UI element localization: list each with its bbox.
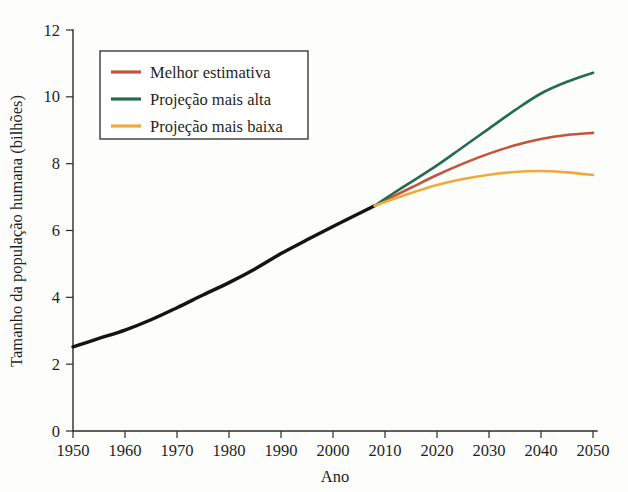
y-tick-label: 12 <box>44 21 61 40</box>
x-tick-label: 2000 <box>317 441 350 460</box>
x-tick-label: 2040 <box>525 441 558 460</box>
y-tick-label: 2 <box>52 355 60 374</box>
chart-legend: Melhor estimativaProjeção mais altaProje… <box>100 51 308 139</box>
y-tick-label: 6 <box>52 221 60 240</box>
chart-figure: 024681012 195019601970198019902000201020… <box>0 0 628 492</box>
series-line-proje-o-mais-alta <box>375 73 593 206</box>
series-line-hist-rico <box>73 206 375 347</box>
y-tick-label: 8 <box>52 154 60 173</box>
y-tick-label: 10 <box>44 87 61 106</box>
x-tick-label: 2020 <box>421 441 454 460</box>
x-tick-label: 1950 <box>57 441 90 460</box>
population-projection-line-chart: 024681012 195019601970198019902000201020… <box>0 0 628 492</box>
y-axis-title: Tamanho da população humana (bilhões) <box>7 95 26 367</box>
legend-label-2: Projeção mais baixa <box>150 117 284 136</box>
x-axis-title: Ano <box>321 467 349 486</box>
y-tick-label: 0 <box>52 422 60 441</box>
y-axis-ticks: 024681012 <box>44 21 74 441</box>
legend-label-1: Projeção mais alta <box>150 90 272 109</box>
y-tick-label: 4 <box>52 288 60 307</box>
x-axis-ticks: 1950196019701980199020002010202020302040… <box>57 431 610 460</box>
x-tick-label: 2050 <box>577 441 610 460</box>
x-tick-label: 1990 <box>265 441 298 460</box>
x-tick-label: 1960 <box>109 441 142 460</box>
x-tick-label: 2030 <box>473 441 506 460</box>
legend-label-0: Melhor estimativa <box>150 63 271 82</box>
x-tick-label: 1970 <box>161 441 194 460</box>
x-tick-label: 1980 <box>213 441 246 460</box>
x-tick-label: 2010 <box>369 441 402 460</box>
